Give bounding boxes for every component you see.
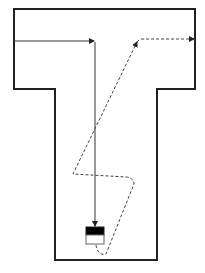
target-box-top (86, 227, 104, 235)
t-maze-diagram (0, 0, 205, 273)
winding-path-exit (137, 39, 194, 42)
t-enclosure (14, 9, 195, 260)
winding-path (73, 42, 137, 254)
target-box-bottom (86, 235, 104, 244)
